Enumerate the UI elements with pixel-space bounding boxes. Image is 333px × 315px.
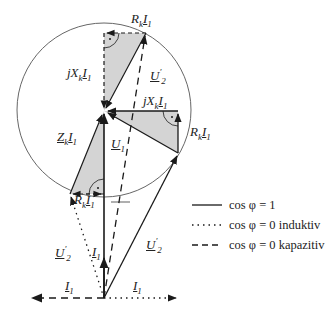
label-u1: U1 bbox=[111, 137, 125, 154]
label-i1-right: I1 bbox=[133, 279, 142, 296]
legend-item-dotted: cos φ = 0 induktiv bbox=[229, 219, 320, 232]
label-i1-mid: I1 bbox=[92, 245, 101, 262]
label-rk-i1-bottom: RkI1 bbox=[74, 193, 95, 210]
label-i1-left: I1 bbox=[65, 279, 74, 296]
label-u2p-left: U′2 bbox=[55, 245, 71, 263]
label-zk-i1: ZkI1 bbox=[57, 130, 77, 147]
label-u2p-top: U′2 bbox=[150, 68, 166, 86]
label-u2p-right: U′2 bbox=[146, 237, 162, 255]
u2p-solid-vector bbox=[104, 156, 177, 298]
label-jxk-i1-top: jXkI1 bbox=[67, 66, 91, 83]
legend-item-dashed: cos φ = 0 kapazitiv bbox=[229, 239, 325, 252]
phasor-diagram bbox=[0, 0, 333, 315]
label-jxk-i1-right: jXkI1 bbox=[143, 94, 167, 111]
label-rk-i1-top: RkI1 bbox=[131, 12, 152, 29]
label-rk-i1-right: RkI1 bbox=[190, 125, 211, 142]
legend-item-solid: cos φ = 1 bbox=[229, 199, 276, 212]
